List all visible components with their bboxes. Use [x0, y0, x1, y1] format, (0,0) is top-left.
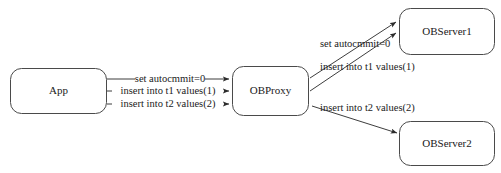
node-obproxy-label: OBProxy: [250, 84, 292, 96]
edge-label-app-proxy-3: insert into t2 values(2): [121, 98, 216, 110]
edge-app-to-proxy-1: set autocmmit=0: [107, 73, 229, 84]
edge-label-proxy-server2-1: insert into t2 values(2): [320, 102, 415, 114]
diagram-svg: App OBProxy OBServer1 OBServer2 set auto…: [0, 0, 501, 173]
node-observer2-label: OBServer2: [422, 137, 472, 149]
edge-app-to-proxy-2: insert into t1 values(1): [107, 85, 229, 97]
edge-label-proxy-server1-2: insert into t1 values(1): [320, 61, 415, 73]
node-app[interactable]: App: [11, 69, 107, 114]
edge-label-app-proxy-2: insert into t1 values(1): [121, 85, 216, 97]
node-observer1-label: OBServer1: [422, 25, 472, 37]
edge-app-to-proxy-3: insert into t2 values(2): [107, 98, 229, 110]
node-observer2[interactable]: OBServer2: [400, 122, 495, 166]
diagram-canvas: App OBProxy OBServer1 OBServer2 set auto…: [0, 0, 501, 173]
node-obproxy[interactable]: OBProxy: [233, 67, 309, 116]
edge-label-app-proxy-1: set autocmmit=0: [135, 73, 205, 84]
node-app-label: App: [49, 84, 68, 96]
node-observer1[interactable]: OBServer1: [400, 9, 495, 55]
